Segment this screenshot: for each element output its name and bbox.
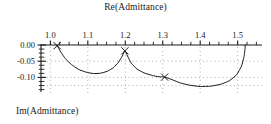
x-tick-label: 1.3 xyxy=(150,30,176,40)
horizontal-gridlines xyxy=(43,61,262,85)
y-tick-label: -0.05 xyxy=(1,56,35,66)
y-axis-title: Im(Admittance) xyxy=(16,106,79,116)
admittance-curve xyxy=(57,45,245,87)
admittance-plot-figure: Re(Admittance) 1.01.11.21.31.41.5 0.00-0… xyxy=(0,0,271,124)
x-axis-ticks xyxy=(50,41,256,46)
y-tick-label: -0.10 xyxy=(1,72,35,82)
x-tick-label: 1.1 xyxy=(75,30,101,40)
x-tick-label: 1.5 xyxy=(225,30,251,40)
x-tick-label: 1.2 xyxy=(112,30,138,40)
y-tick-label: 0.00 xyxy=(1,40,35,50)
y-axis-ticks xyxy=(38,45,47,90)
x-tick-label: 1.0 xyxy=(37,30,63,40)
x-tick-label: 1.4 xyxy=(187,30,213,40)
